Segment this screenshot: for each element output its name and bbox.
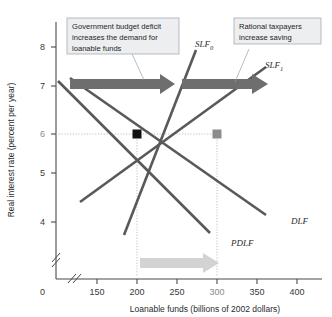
loanable-funds-market-chart: 8 7 6 5 4 0 150 200 250 300 350 400 Loan… xyxy=(0,0,332,317)
curve-label-slf1: SLF1 xyxy=(265,60,283,72)
x-tick-label-300: 300 xyxy=(209,287,224,297)
y-axis-title: Real interest rate (percent per year) xyxy=(6,83,16,218)
y-tick-label-7: 7 xyxy=(40,81,45,91)
y-tick-label-8: 8 xyxy=(40,42,45,52)
y-tick-label-4: 4 xyxy=(40,217,45,227)
x-tick-label-0: 0 xyxy=(40,287,45,297)
x-tick-label-400: 400 xyxy=(289,287,304,297)
axes-group xyxy=(51,22,322,284)
x-tick-label-250: 250 xyxy=(169,287,184,297)
supply-shift-arrow xyxy=(182,74,268,94)
equilibrium-point-new xyxy=(213,130,222,139)
curve-label-dlf: DLF xyxy=(290,216,309,226)
saving-callout-line-1: Rational taxpayers xyxy=(239,22,302,31)
saving-callout-leader xyxy=(235,49,249,82)
curve-dlf xyxy=(70,78,266,215)
saving-callout-line-2: increase saving xyxy=(239,33,292,42)
deficit-callout-line-3: loanable funds xyxy=(72,44,122,53)
equilibrium-gridlines xyxy=(56,134,219,277)
curve-label-slf0: SLF0 xyxy=(195,39,214,51)
x-tick-label-350: 350 xyxy=(249,287,264,297)
quantity-change-arrow xyxy=(140,253,219,273)
curve-labels: SLF0 SLF1 DLF PDLF xyxy=(195,39,309,248)
deficit-callout-line-1: Government budget deficit xyxy=(72,22,162,31)
x-tick-label-200: 200 xyxy=(129,287,144,297)
y-tick-label-5: 5 xyxy=(40,168,45,178)
curve-label-pdlf: PDLF xyxy=(230,238,254,248)
deficit-callout-line-2: increases the demand for xyxy=(72,33,158,42)
demand-shift-arrow xyxy=(70,74,175,94)
chart-canvas: 8 7 6 5 4 0 150 200 250 300 350 400 Loan… xyxy=(0,0,332,317)
equilibrium-point-initial xyxy=(133,130,142,139)
deficit-callout: Government budget deficit increases the … xyxy=(67,18,179,54)
x-axis-title: Loanable funds (billions of 2002 dollars… xyxy=(130,304,280,314)
y-tick-label-6: 6 xyxy=(40,129,45,139)
saving-callout: Rational taxpayers increase saving xyxy=(234,18,321,44)
x-tick-labels: 150 200 250 300 350 400 xyxy=(89,287,304,297)
y-tick-labels: 8 7 6 5 4 0 xyxy=(40,42,45,297)
x-tick-label-150: 150 xyxy=(89,287,104,297)
deficit-callout-leader xyxy=(132,54,144,80)
